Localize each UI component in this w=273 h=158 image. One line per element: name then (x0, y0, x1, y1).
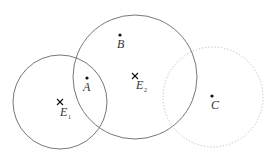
center-e1-label: E (59, 105, 68, 119)
diagram-canvas: A B C E 1 E 2 (0, 0, 273, 158)
point-c-label: C (211, 98, 220, 112)
circle-e2 (73, 15, 197, 139)
center-e1-subscript: 1 (68, 114, 71, 120)
diagram: A B C E 1 E 2 (0, 0, 273, 158)
point-b-label: B (117, 37, 125, 51)
center-e2-subscript: 2 (144, 87, 147, 93)
point-a-label: A (82, 80, 91, 94)
center-e2-label: E (135, 78, 144, 92)
